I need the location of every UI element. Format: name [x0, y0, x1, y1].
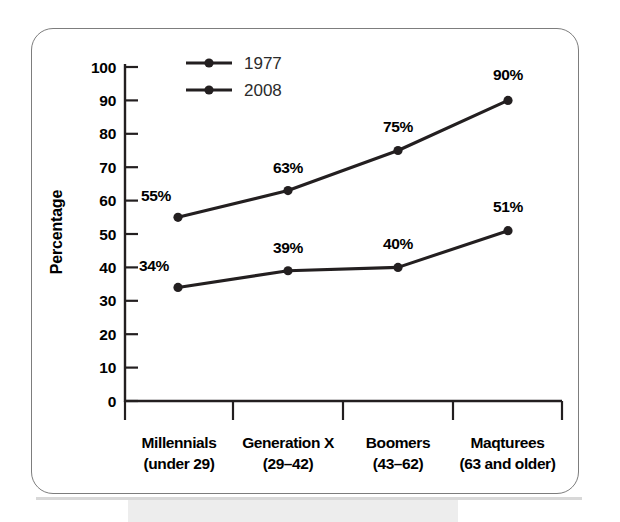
data-point-marker	[283, 186, 292, 195]
series-line	[178, 231, 508, 288]
category-label-name: Maqturees	[471, 434, 545, 451]
line-chart: 0102030405060708090100 Percentage 55%63%…	[0, 0, 620, 522]
data-point-label: 39%	[273, 239, 303, 256]
data-point-marker	[173, 283, 182, 292]
data-point-label: 34%	[139, 257, 169, 274]
category-label-range: (63 and older)	[459, 455, 555, 472]
y-axis-tick-label: 70	[99, 159, 116, 176]
data-point-marker	[503, 96, 512, 105]
y-axis: 0102030405060708090100	[91, 59, 138, 410]
data-point-label: 55%	[141, 187, 171, 204]
series-1977	[173, 96, 512, 222]
series-2008	[173, 226, 512, 292]
data-point-marker	[503, 226, 512, 235]
data-point-marker	[283, 266, 292, 275]
data-point-label: 51%	[493, 198, 523, 215]
y-axis-tick-label: 100	[91, 59, 116, 76]
legend-label: 2008	[244, 81, 282, 100]
y-axis-tick-label: 60	[99, 192, 116, 209]
category-label-range: (29–42)	[263, 455, 314, 472]
chart-legend: 19772008	[186, 54, 282, 100]
x-axis	[125, 401, 562, 420]
data-point-label: 40%	[383, 235, 413, 252]
category-label-name: Boomers	[366, 434, 430, 451]
data-point-label: 75%	[383, 118, 413, 135]
x-axis-category-labels: Millennials(under 29)Generation X(29–42)…	[142, 434, 556, 472]
y-axis-tick-labels: 0102030405060708090100	[91, 59, 116, 410]
legend-item-1977: 1977	[186, 54, 282, 73]
y-axis-tick-label: 50	[99, 226, 116, 243]
data-point-marker	[393, 263, 402, 272]
data-point-marker	[173, 213, 182, 222]
y-axis-tick-label: 30	[99, 292, 116, 309]
data-point-label: 63%	[273, 159, 303, 176]
category-label-range: (under 29)	[144, 455, 215, 472]
y-axis-tick-label: 80	[99, 125, 116, 142]
series-layer	[173, 96, 512, 292]
legend-swatch-marker	[204, 85, 213, 94]
series-line	[178, 100, 508, 217]
y-axis-tick-label: 20	[99, 326, 116, 343]
data-point-label: 90%	[493, 66, 523, 83]
data-point-marker	[393, 146, 402, 155]
y-axis-tick-label: 0	[108, 393, 116, 410]
y-axis-tick-label: 40	[99, 259, 116, 276]
y-axis-tick-label: 10	[99, 359, 116, 376]
y-axis-ticks	[125, 67, 138, 401]
category-label-name: Generation X	[242, 434, 335, 451]
legend-label: 1977	[244, 54, 282, 73]
y-axis-tick-label: 90	[99, 92, 116, 109]
page-background: 0102030405060708090100 Percentage 55%63%…	[0, 0, 620, 522]
chart-plot-svg: 0102030405060708090100 Percentage 55%63%…	[0, 0, 620, 522]
y-axis-title: Percentage	[48, 190, 65, 275]
x-axis-ticks	[125, 401, 562, 420]
category-label-range: (43–62)	[373, 455, 424, 472]
category-label-name: Millennials	[142, 434, 217, 451]
legend-item-2008: 2008	[186, 81, 282, 100]
legend-swatch-marker	[204, 58, 213, 67]
